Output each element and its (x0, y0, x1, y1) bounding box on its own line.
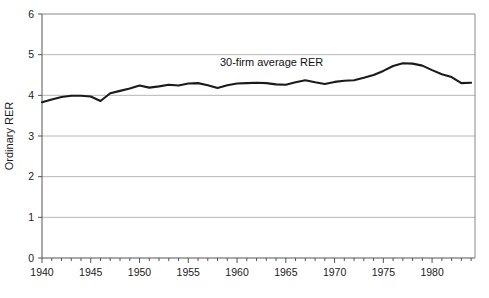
x-tick-label-1970: 1970 (323, 266, 347, 278)
y-axis-ticks: 0123456 (28, 8, 42, 264)
x-tick-label-1960: 1960 (225, 266, 249, 278)
y-tick-label-2: 2 (28, 170, 34, 182)
series-annotation-label: 30-firm average RER (220, 56, 323, 68)
chart-container: 0123456 19401945195019551960196519701975… (0, 0, 489, 298)
y-tick-label-1: 1 (28, 211, 34, 223)
y-tick-label-0: 0 (28, 252, 34, 264)
y-tick-label-4: 4 (28, 89, 34, 101)
x-tick-label-1950: 1950 (128, 266, 152, 278)
x-tick-label-1940: 1940 (30, 266, 54, 278)
x-tick-label-1955: 1955 (177, 266, 201, 278)
x-tick-label-1975: 1975 (372, 266, 396, 278)
x-axis-ticks: 194019451950195519601965197019751980 (30, 258, 471, 278)
y-axis-title: Ordinary RER (3, 102, 15, 171)
line-chart: 0123456 19401945195019551960196519701975… (0, 0, 489, 298)
x-tick-label-1980: 1980 (420, 266, 444, 278)
x-tick-label-1965: 1965 (274, 266, 298, 278)
y-tick-label-3: 3 (28, 130, 34, 142)
y-tick-label-6: 6 (28, 8, 34, 20)
y-tick-label-5: 5 (28, 48, 34, 60)
x-tick-label-1945: 1945 (79, 266, 103, 278)
